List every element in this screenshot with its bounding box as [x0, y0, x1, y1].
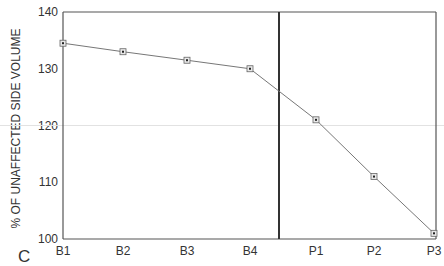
data-point-center — [122, 51, 124, 53]
y-tick-label: 130 — [38, 62, 58, 76]
data-point-center — [433, 232, 435, 234]
y-axis-label: % OF UNAFFECTED SIDE VOLUME — [9, 28, 23, 228]
x-tick-label: B4 — [243, 244, 258, 258]
x-tick-label: P1 — [309, 244, 324, 258]
y-tick-label: 110 — [39, 175, 58, 189]
data-point-center — [315, 119, 317, 121]
data-series — [60, 40, 437, 236]
panel-label: C — [18, 247, 30, 266]
y-axis-title: % OF UNAFFECTED SIDE VOLUME — [9, 28, 23, 228]
x-axis-ticks: B1B2B3B4P1P2P3 — [56, 244, 442, 258]
x-tick-label: B3 — [180, 244, 195, 258]
data-point-center — [373, 176, 375, 178]
data-point-center — [186, 59, 188, 61]
data-point-center — [249, 68, 251, 70]
plot-frame — [0, 12, 444, 239]
x-tick-label: B1 — [56, 244, 71, 258]
x-tick-label: B2 — [116, 244, 131, 258]
y-tick-label: 140 — [38, 5, 58, 19]
x-tick-label: P2 — [367, 244, 382, 258]
data-point-center — [62, 42, 64, 44]
x-tick-label: P3 — [427, 244, 442, 258]
line-chart: % OF UNAFFECTED SIDE VOLUME 100110120130… — [0, 0, 444, 266]
